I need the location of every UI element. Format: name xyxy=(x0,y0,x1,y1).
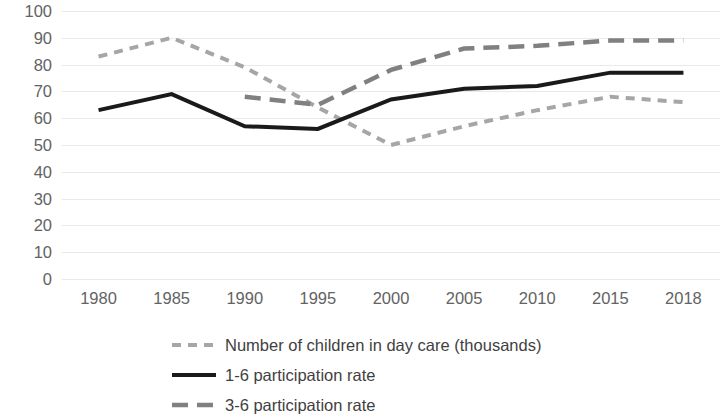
legend-item[interactable]: 3-6 participation rate xyxy=(0,390,727,420)
x-axis-tick-label: 1980 xyxy=(80,288,117,309)
x-axis-tick-label: 1990 xyxy=(226,288,263,309)
y-axis-tick-label: 40 xyxy=(0,164,52,181)
legend-swatch-icon xyxy=(172,368,216,382)
y-axis-tick-label: 30 xyxy=(0,190,52,207)
y-axis-tick-label: 90 xyxy=(0,30,52,47)
y-axis-tick-label: 10 xyxy=(0,244,52,261)
x-axis-tick-label: 1985 xyxy=(153,288,190,309)
y-axis-tick-label: 100 xyxy=(0,3,52,20)
chart-legend: Number of children in day care (thousand… xyxy=(0,330,727,420)
legend-item-label: Number of children in day care (thousand… xyxy=(225,337,541,354)
plot-area xyxy=(62,11,720,279)
y-axis-tick-label: 50 xyxy=(0,137,52,154)
legend-item-label: 1-6 participation rate xyxy=(225,367,375,384)
y-axis-tick-label: 20 xyxy=(0,217,52,234)
legend-item[interactable]: Number of children in day care (thousand… xyxy=(0,330,727,360)
x-axis-tick-label: 2018 xyxy=(665,288,702,309)
legend-item[interactable]: 1-6 participation rate xyxy=(0,360,727,390)
y-axis-tick-label: 60 xyxy=(0,110,52,127)
y-axis-tick-label: 0 xyxy=(0,271,52,288)
legend-item-label: 3-6 participation rate xyxy=(225,397,375,414)
series-line-1 xyxy=(99,38,684,145)
line-chart: 1009080706050403020100 19801985199019952… xyxy=(0,0,727,420)
x-axis-tick-label: 2005 xyxy=(446,288,483,309)
x-axis: 198019851990199520002005201020152018 xyxy=(62,288,720,314)
x-axis-tick-label: 2015 xyxy=(592,288,629,309)
x-axis-tick-label: 1995 xyxy=(300,288,337,309)
series-layer xyxy=(62,11,720,279)
y-axis-tick-label: 70 xyxy=(0,83,52,100)
legend-swatch-icon xyxy=(172,398,216,412)
x-axis-tick-label: 2000 xyxy=(373,288,410,309)
gridline xyxy=(62,279,720,280)
y-axis: 1009080706050403020100 xyxy=(0,0,52,279)
legend-swatch-icon xyxy=(172,338,216,352)
x-axis-tick-label: 2010 xyxy=(519,288,556,309)
y-axis-tick-label: 80 xyxy=(0,56,52,73)
